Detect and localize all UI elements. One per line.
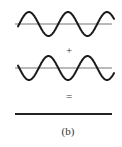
figure-caption: (b) (62, 126, 75, 137)
equals-sign: = (66, 91, 72, 102)
plus-sign: + (66, 45, 72, 56)
